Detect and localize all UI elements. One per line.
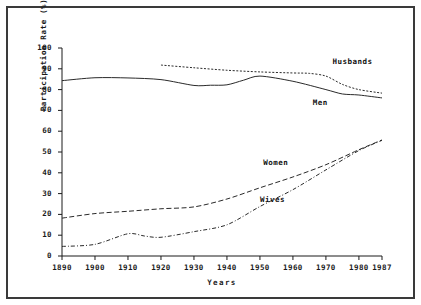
y-tick-label: 20	[28, 209, 52, 218]
y-axis-title: Participation Rate (%)	[37, 0, 51, 145]
series-label-wives: Wives	[260, 195, 285, 204]
y-tick-label: 10	[28, 230, 52, 239]
x-tick-label: 1920	[144, 263, 178, 272]
x-tick-label: 1910	[111, 263, 145, 272]
series-label-women: Women	[263, 158, 288, 167]
y-tick-label: 0	[28, 251, 52, 260]
y-axis-ticks	[58, 48, 62, 256]
x-axis-title: Years	[62, 278, 382, 287]
x-tick-label: 1930	[177, 263, 211, 272]
series-label-husbands: Husbands	[333, 57, 373, 66]
x-tick-label: 1890	[45, 263, 79, 272]
x-tick-label: 1970	[309, 263, 343, 272]
y-tick-label: 40	[28, 168, 52, 177]
x-axis-ticks	[62, 256, 382, 260]
x-tick-label: 1900	[78, 263, 112, 272]
series-line-men	[62, 76, 382, 98]
x-tick-label: 1987	[365, 263, 399, 272]
x-tick-label: 1940	[210, 263, 244, 272]
chart-figure: 0102030405060708090100 18901900191019201…	[0, 0, 421, 305]
series-label-men: Men	[313, 98, 328, 107]
y-tick-label: 30	[28, 189, 52, 198]
x-tick-label: 1950	[243, 263, 277, 272]
series-line-wives	[62, 140, 382, 246]
chart-canvas	[0, 0, 421, 305]
series-line-women	[62, 140, 382, 218]
data-series-group	[62, 65, 382, 246]
x-tick-label: 1960	[276, 263, 310, 272]
series-line-husbands	[161, 65, 382, 93]
y-tick-label: 50	[28, 147, 52, 156]
